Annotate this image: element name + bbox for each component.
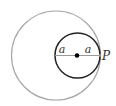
label-point-p: P: [101, 49, 111, 63]
point-p-marker: [99, 54, 101, 56]
circle-diagram: a a P: [0, 0, 116, 106]
center-dot: [75, 53, 80, 58]
label-radius-left: a: [59, 43, 66, 56]
label-radius-right: a: [85, 43, 92, 56]
